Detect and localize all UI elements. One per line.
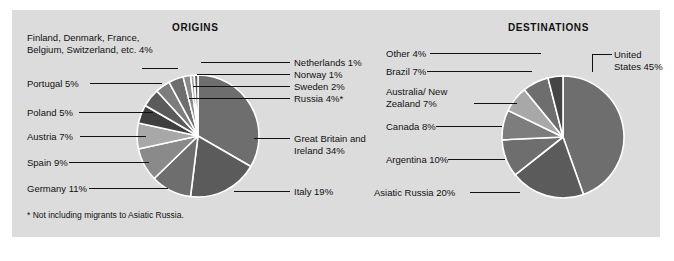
leader-line-russia	[189, 98, 290, 99]
destinations-label-australia: Australia/ New Zealand 7%	[386, 86, 478, 109]
leader-line-canada	[436, 126, 502, 127]
destinations-chart-title: DESTINATIONS	[508, 22, 589, 33]
origins-pie-chart	[136, 74, 260, 198]
destinations-pie-svg	[501, 75, 625, 199]
leader-line-brazil	[427, 71, 532, 72]
leader-line-austria	[80, 136, 146, 137]
destinations-pie-chart	[501, 75, 625, 199]
origins-chart-title: ORIGINS	[172, 22, 218, 33]
origins-label-italy: Italy 19%	[294, 186, 333, 198]
leader-line-other	[430, 53, 541, 54]
leader-line-spain	[69, 162, 149, 163]
leader-line-germany	[89, 188, 168, 189]
origins-label-portugal: Portugal 5%	[27, 78, 79, 90]
destinations-label-asiatic-russia: Asiatic Russia 20%	[374, 187, 455, 199]
origins-footnote: * Not including migrants to Asiatic Russ…	[27, 210, 184, 220]
origins-label-britain: Great Britain and Ireland 34%	[294, 133, 372, 156]
destinations-label-argentina: Argentina 10%	[386, 154, 448, 166]
leader-line-italy	[234, 191, 290, 192]
leader-line-united-states	[592, 54, 612, 55]
leader-line-portugal	[90, 83, 162, 84]
leader-line-argentina	[448, 159, 505, 160]
leader-line-netherlands	[201, 62, 290, 63]
origins-label-spain: Spain 9%	[27, 157, 68, 169]
leader-line-poland	[79, 112, 153, 113]
leader-line-misc	[142, 68, 178, 69]
origins-label-netherlands: Netherlands 1%	[294, 57, 362, 69]
origins-label-norway: Norway 1%	[294, 69, 343, 81]
leader-line-sweden	[193, 86, 290, 87]
destinations-label-brazil: Brazil 7%	[386, 66, 426, 78]
origins-label-germany: Germany 11%	[27, 183, 87, 195]
destinations-label-other: Other 4%	[386, 48, 426, 60]
origins-pie-svg	[136, 74, 260, 198]
origins-label-austria: Austria 7%	[27, 131, 73, 143]
origins-label-poland: Poland 5%	[27, 107, 73, 119]
origins-label-misc: Finland, Denmark, France, Belgium, Switz…	[27, 32, 177, 55]
leader-line-united-states-tick	[592, 54, 593, 72]
destinations-label-united-states: United States 45%	[614, 49, 670, 73]
leader-line-asiatic-russia	[470, 192, 520, 193]
leader-line-britain	[254, 138, 290, 139]
origins-label-sweden: Sweden 2%	[294, 81, 345, 93]
leader-line-norway	[197, 74, 290, 75]
destinations-label-canada: Canada 8%	[386, 121, 436, 133]
origins-label-russia: Russia 4%*	[294, 93, 343, 105]
leader-line-australia	[474, 103, 517, 104]
